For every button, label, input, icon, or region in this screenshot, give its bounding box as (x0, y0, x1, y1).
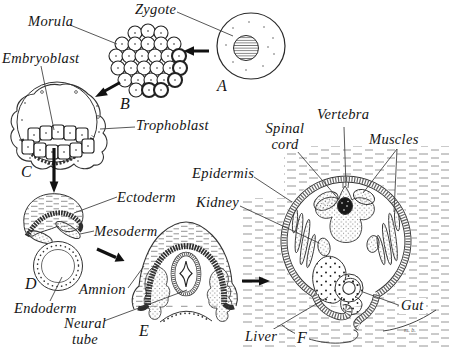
label-neural-tube: Neural tube (61, 316, 109, 347)
gut-shape (335, 274, 363, 302)
label-kidney: Kidney (196, 195, 239, 211)
label-epidermis: Epidermis (192, 166, 254, 182)
stage-letter-e: E (139, 322, 149, 339)
label-trophoblast: Trophoblast (136, 118, 209, 134)
label-gut: Gut (399, 298, 426, 314)
stage-a-zygote (217, 13, 285, 79)
label-mesoderm: Mesoderm (94, 224, 158, 240)
label-muscles: Muscles (367, 132, 421, 148)
stage-letter-c: C (21, 163, 32, 180)
stage-letter-b: B (120, 95, 130, 112)
stage-letter-d: D (25, 275, 37, 292)
label-zygote: Zygote (135, 2, 176, 18)
label-embryoblast: Embryoblast (2, 51, 79, 67)
zygote-nucleus (234, 36, 259, 61)
artist-signature: m. b. (404, 327, 416, 333)
label-vertebra: Vertebra (317, 107, 369, 123)
label-spinal-cord: Spinal cord (259, 121, 311, 152)
label-amnion: Amnion (79, 282, 126, 298)
stage-c-blastocyst (11, 82, 107, 169)
stage-b-morula (109, 24, 187, 97)
endoderm-yolk (34, 242, 83, 291)
label-liver: Liver (243, 329, 279, 345)
mesoderm-mass-right (207, 268, 232, 322)
mesoderm-mass-left (144, 267, 170, 320)
label-ectoderm: Ectoderm (117, 190, 176, 206)
embryo-development-figure: Zygote Morula Embryoblast Trophoblast Ec… (0, 0, 449, 352)
stage-letter-f: F (295, 329, 309, 346)
label-morula: Morula (28, 14, 73, 30)
stage-letter-a: A (217, 77, 227, 94)
endoderm-arc (160, 311, 212, 322)
